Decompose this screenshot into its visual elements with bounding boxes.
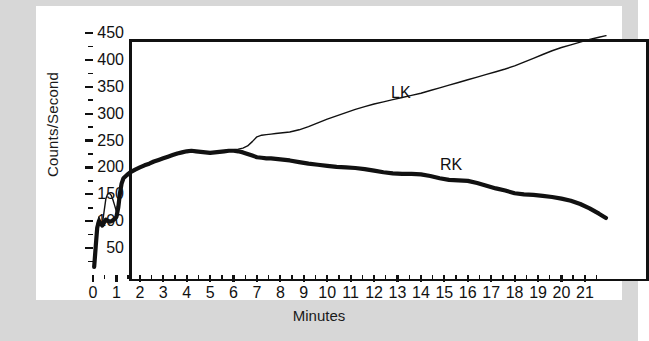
y-tick-label: 400	[78, 52, 124, 68]
y-tick-label: 250	[78, 133, 124, 149]
series-label-rk: RK	[440, 157, 462, 173]
plot-frame	[129, 39, 649, 281]
x-tick-label: 20	[548, 285, 574, 301]
x-axis-band: Minutes	[0, 300, 638, 341]
y-tick-label: 300	[78, 106, 124, 122]
series-label-lk: LK	[391, 85, 411, 101]
x-tick-label: 2	[127, 285, 153, 301]
y-tick-label: 350	[78, 79, 124, 95]
x-tick-label: 17	[478, 285, 504, 301]
x-tick-label: 12	[361, 285, 387, 301]
x-tick-label: 21	[572, 285, 598, 301]
plot-card: Counts/Second 50100150200250300350400450…	[36, 6, 622, 300]
y-tick-label: 450	[78, 25, 124, 41]
x-tick-label: 14	[408, 285, 434, 301]
x-tick-label: 18	[502, 285, 528, 301]
x-tick-label: 16	[455, 285, 481, 301]
x-tick-label: 5	[197, 285, 223, 301]
x-tick-label: 4	[174, 285, 200, 301]
x-tick-label: 8	[267, 285, 293, 301]
x-tick-label: 7	[244, 285, 270, 301]
x-tick-label: 13	[385, 285, 411, 301]
x-tick-label: 3	[150, 285, 176, 301]
y-tick-label: 150	[78, 186, 124, 202]
x-tick-label: 15	[431, 285, 457, 301]
y-axis-title: Counts/Second	[44, 35, 61, 215]
x-tick-label: 11	[338, 285, 364, 301]
x-tick-label: 9	[291, 285, 317, 301]
y-tick-label: 200	[78, 159, 124, 175]
x-tick-label: 1	[103, 285, 129, 301]
y-tick-label: 50	[78, 240, 124, 256]
y-tick-label: 100	[78, 213, 124, 229]
x-tick-label: 10	[314, 285, 340, 301]
x-tick-label: 6	[221, 285, 247, 301]
x-tick-label: 0	[80, 285, 106, 301]
y-axis-tick-labels: 50100150200250300350400450	[76, 6, 124, 300]
x-axis-title: Minutes	[0, 307, 638, 324]
x-tick-label: 19	[525, 285, 551, 301]
